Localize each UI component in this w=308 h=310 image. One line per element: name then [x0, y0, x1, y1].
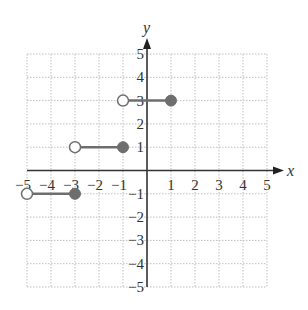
axes: x y — [27, 19, 294, 287]
x-tick-label: −1 — [111, 177, 127, 193]
x-tick-label: 5 — [263, 177, 271, 193]
open-endpoint-icon — [22, 188, 33, 199]
x-tick-label: 2 — [191, 177, 199, 193]
x-axis-label: x — [286, 162, 294, 179]
x-axis-arrow-icon — [273, 167, 284, 175]
y-axis-label: y — [141, 19, 151, 37]
closed-endpoint-icon — [118, 142, 129, 153]
y-tick-label: 5 — [137, 46, 145, 62]
x-tick-label: 3 — [215, 177, 223, 193]
y-tick-label: −3 — [128, 232, 144, 248]
open-endpoint-icon — [70, 142, 81, 153]
y-tick-label: 1 — [137, 139, 145, 155]
open-endpoint-icon — [118, 95, 129, 106]
y-tick-label: 2 — [137, 116, 145, 132]
x-tick-label: 4 — [239, 177, 247, 193]
closed-endpoint-icon — [70, 188, 81, 199]
y-axis-arrow-icon — [143, 38, 151, 49]
step-function-graph: x y −5−4−3−2−11234554321−1−2−3−4−5 — [0, 0, 308, 310]
y-tick-label: −1 — [128, 186, 144, 202]
closed-endpoint-icon — [166, 95, 177, 106]
y-tick-label: −5 — [128, 279, 144, 295]
y-tick-label: −4 — [128, 256, 144, 272]
x-tick-label: −2 — [87, 177, 103, 193]
y-tick-label: −2 — [128, 209, 144, 225]
y-tick-label: 4 — [137, 69, 145, 85]
x-tick-label: −4 — [39, 177, 55, 193]
x-tick-label: 1 — [167, 177, 175, 193]
